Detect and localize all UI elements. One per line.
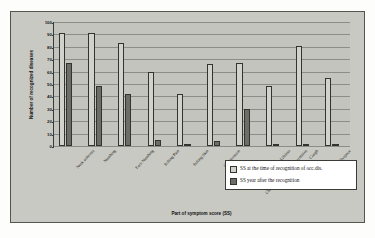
bar	[332, 144, 338, 146]
bar-group	[232, 22, 262, 146]
chart-frame: Number of recognized diseases 0102030405…	[10, 11, 365, 223]
legend-label-series-0: SS at the time of recognition of occ.dis…	[240, 165, 322, 172]
bar	[177, 94, 183, 146]
bar	[118, 43, 124, 146]
bar-group	[143, 22, 173, 146]
bar	[214, 141, 220, 146]
bar	[148, 72, 154, 146]
y-tick-label: 40	[47, 95, 52, 99]
bar	[273, 144, 279, 146]
bar-group	[113, 22, 143, 146]
y-tick-label: 90	[47, 33, 52, 37]
y-tick-label: 70	[47, 58, 52, 62]
x-tick-label: Itching Skin	[193, 149, 210, 167]
y-tick-label: 20	[47, 120, 52, 124]
legend-swatch-series-0	[230, 166, 237, 173]
x-tick-label: Neck arthrosis	[76, 149, 96, 170]
chart-legend: SS at the time of recognition of occ.dis…	[225, 160, 357, 190]
bar-group	[320, 22, 350, 146]
bar-series-container	[54, 22, 350, 146]
bar-group	[84, 22, 114, 146]
bar-group	[54, 22, 84, 146]
bar	[296, 46, 302, 146]
bar	[88, 33, 94, 146]
y-axis-title: Number of recognized diseases	[27, 22, 37, 147]
y-tick-label: 60	[47, 70, 52, 74]
y-tick-label: 50	[47, 83, 52, 87]
bar	[207, 64, 213, 146]
y-tick-label: 80	[47, 46, 52, 50]
gridline: 0	[54, 146, 350, 147]
y-tick-label: 10	[47, 132, 52, 136]
bar-group	[172, 22, 202, 146]
bar	[155, 140, 161, 146]
x-tick-label: Face Numbing	[135, 149, 155, 170]
y-tick-label: 100	[45, 21, 52, 25]
bar	[96, 86, 102, 146]
bar	[59, 33, 65, 146]
plot-area: 0102030405060708090100 Neck arthrosisNum…	[53, 22, 350, 147]
bar	[184, 144, 190, 146]
bar	[303, 144, 309, 146]
bar	[266, 86, 272, 146]
legend-item: SS year after the recognition	[230, 177, 352, 185]
bar-group	[261, 22, 291, 146]
y-tick-mark	[52, 147, 54, 148]
bar-group	[291, 22, 321, 146]
x-tick-label: Numbing	[103, 149, 117, 163]
legend-swatch-series-1	[230, 178, 237, 185]
bar	[244, 109, 250, 146]
y-tick-label: 0	[50, 145, 52, 149]
legend-item: SS at the time of recognition of occ.dis…	[230, 165, 352, 173]
x-axis-title: Part of symptom score (SS)	[53, 211, 350, 216]
chart-screenshot: Number of recognized diseases 0102030405…	[0, 0, 375, 238]
x-tick-label: Itching Pain	[163, 149, 180, 167]
bar	[325, 78, 331, 146]
bar	[125, 94, 131, 146]
x-tick-label: Cough	[308, 149, 319, 160]
bar	[66, 63, 72, 146]
y-tick-label: 30	[47, 108, 52, 112]
bar-group	[202, 22, 232, 146]
bar	[236, 63, 242, 146]
legend-label-series-1: SS year after the recognition	[240, 177, 299, 184]
